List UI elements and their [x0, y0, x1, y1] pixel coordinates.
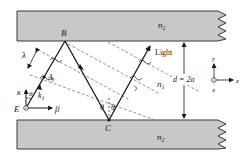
coordinate-axes: y z x	[211, 55, 239, 94]
theta-arc	[26, 98, 31, 99]
x-axis-label: x	[211, 86, 216, 94]
reflected-ray-up	[109, 46, 150, 120]
point-C-marker	[107, 118, 110, 121]
thickness-label: d = 2a	[173, 75, 194, 84]
top-cladding: n2	[17, 11, 226, 41]
theta-label: θ	[29, 90, 33, 98]
point-A-label: A	[47, 73, 53, 82]
wavevector-diagram: κ θ k1 E β	[13, 88, 60, 114]
waveguide-diagram: n2 n2 θ θ B C A	[0, 0, 251, 159]
angle-theta-left: θ	[100, 103, 104, 112]
kappa-label: κ	[17, 88, 21, 97]
point-C-label: C	[105, 123, 112, 133]
wavelength-label: λ	[21, 50, 26, 60]
wave-symbols	[40, 58, 151, 80]
y-axis-label: y	[211, 55, 216, 63]
thickness-marker: d = 2a	[172, 43, 201, 118]
bottom-cladding: n2	[17, 120, 226, 149]
point-A-marker	[42, 75, 45, 78]
angle-theta-right: θ	[111, 103, 115, 112]
E-label: E	[13, 104, 20, 114]
core-index-label: n1	[157, 79, 165, 90]
z-axis-label: z	[235, 77, 239, 85]
right-angle-mark	[134, 86, 137, 91]
point-B-label: B	[61, 28, 67, 38]
light-label: Light	[155, 48, 173, 57]
wavelength-marker: λ	[21, 50, 36, 68]
k1-label: k1	[38, 91, 45, 101]
beta-label: β	[54, 104, 60, 114]
